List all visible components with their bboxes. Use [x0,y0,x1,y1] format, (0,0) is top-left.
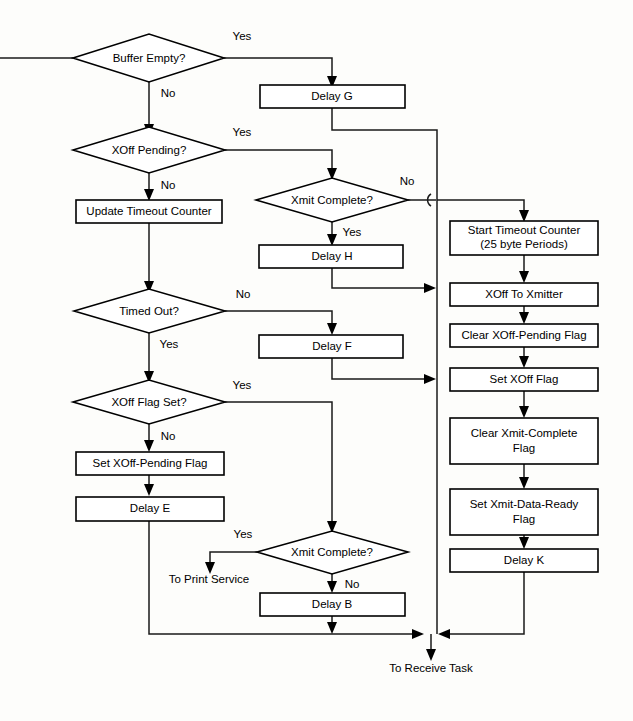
arrowhead-into-clear-xoff-pending-flag [519,312,529,324]
process-clear-xoff-pending-flag-label: Clear XOff-Pending Flag [461,329,586,341]
process-delay-g-label: Delay G [311,90,353,102]
edge-label-xmit-complete-bottom-yes: Yes [234,528,253,540]
process-clear-xmit-complete-flag-shape [450,418,598,464]
decision-xoff-flag-set[interactable]: XOff Flag Set? [73,380,225,424]
edge-label-xoff-pending-no: No [161,179,176,191]
arrowhead-into-set-xoff-pending-flag [144,440,154,452]
arrowhead-delay-b-bottom-rail [327,622,337,634]
arrowhead-into-to-receive-task [426,649,436,661]
arrowhead-into-xoff-to-xmitter [519,271,529,283]
process-clear-xmit-complete-flag-label-line2: Flag [513,442,535,454]
process-xoff-to-xmitter-label: XOff To Xmitter [485,288,563,300]
decision-timed-out-label: Timed Out? [119,305,179,317]
arrowhead-into-clear-xmit-complete-flag [519,406,529,418]
decision-timed-out[interactable]: Timed Out? [74,289,225,333]
edge-xmit-complete-top-no-b [437,200,524,214]
decision-xmit-complete-top[interactable]: Xmit Complete? [256,178,408,222]
decision-buffer-empty[interactable]: Buffer Empty? [73,34,224,82]
arrowhead-into-start-timeout-counter [519,210,529,222]
process-start-timeout-counter-label-line1: Start Timeout Counter [468,224,581,236]
process-delay-h-label: Delay H [312,250,353,262]
edge-label-timed-out-no: No [236,288,251,300]
arrowhead-into-delay-f [327,323,337,335]
process-set-xmit-data-ready-flag[interactable]: Set Xmit-Data-Ready Flag [450,489,598,535]
decision-xoff-pending-label: XOff Pending? [112,144,187,156]
process-set-xmit-data-ready-flag-label-line2: Flag [513,513,535,525]
decision-xmit-complete-bottom[interactable]: Xmit Complete? [257,531,408,574]
edge-label-xmit-complete-bottom-no: No [345,578,360,590]
process-set-xoff-pending-flag-label: Set XOff-Pending Flag [93,457,208,469]
process-start-timeout-counter[interactable]: Start Timeout Counter (25 byte Periods) [450,221,598,255]
edge-xoff-pending-yes [225,150,332,172]
process-set-xoff-flag[interactable]: Set XOff Flag [450,368,598,391]
edge-label-xoff-pending-yes: Yes [233,126,252,138]
arrowhead-delay-h-trunk [424,283,436,293]
decision-xmit-complete-bottom-label: Xmit Complete? [291,546,373,558]
process-xoff-to-xmitter[interactable]: XOff To Xmitter [450,283,598,306]
process-delay-b[interactable]: Delay B [260,593,405,616]
edge-delay-h-to-trunk [332,267,428,288]
edge-label-buffer-empty-yes: Yes [233,30,252,42]
edge-label-xmit-complete-top-yes: Yes [343,226,362,238]
edge-timed-out-no [225,311,332,327]
process-delay-g[interactable]: Delay G [260,85,405,108]
decision-xmit-complete-top-label: Xmit Complete? [291,194,373,206]
edge-label-buffer-empty-no: No [161,87,176,99]
arrowhead-into-delay-b [327,581,337,593]
edge-delay-k-to-bottom-junction [446,571,524,634]
arrowhead-right-into-bottom-junction [438,629,450,639]
arrowhead-left-into-bottom-junction [412,629,424,639]
process-delay-k[interactable]: Delay K [450,549,598,572]
arrowhead-into-delay-k [519,537,529,549]
edge-label-xoff-flag-set-yes: Yes [233,379,252,391]
process-delay-k-label: Delay K [504,554,545,566]
process-clear-xmit-complete-flag[interactable]: Clear Xmit-Complete Flag [450,418,598,464]
terminal-to-print-service: To Print Service [169,573,250,585]
process-delay-e-label: Delay E [130,502,171,514]
process-clear-xmit-complete-flag-label-line1: Clear Xmit-Complete [471,427,578,439]
arrowhead-into-delay-h [327,234,337,246]
terminal-to-receive-task: To Receive Task [389,662,473,674]
decision-xoff-flag-set-label: XOff Flag Set? [111,396,186,408]
process-start-timeout-counter-label-line2: (25 byte Periods) [480,238,568,250]
process-delay-f[interactable]: Delay F [259,335,403,358]
edge-xmit-complete-bottom-yes [210,552,257,566]
process-update-timeout-counter[interactable]: Update Timeout Counter [76,200,222,223]
arrowhead-into-set-xoff-flag [519,356,529,368]
process-clear-xoff-pending-flag[interactable]: Clear XOff-Pending Flag [450,324,598,347]
process-set-xmit-data-ready-flag-label-line1: Set Xmit-Data-Ready [470,498,579,510]
decision-buffer-empty-label: Buffer Empty? [113,52,186,64]
process-delay-f-label: Delay F [312,340,352,352]
process-delay-e[interactable]: Delay E [76,497,224,521]
process-delay-h[interactable]: Delay H [259,245,403,268]
decision-xoff-pending[interactable]: XOff Pending? [73,127,225,173]
arrowhead-into-set-xmit-data-ready-flag [519,477,529,489]
process-set-xmit-data-ready-flag-shape [450,489,598,535]
edge-buffer-empty-yes [224,58,332,80]
edge-delay-f-to-trunk [332,358,428,379]
edge-label-xmit-complete-top-no: No [400,175,415,187]
flowchart-svg: Buffer Empty? XOff Pending? Delay G Upda… [0,0,633,721]
edge-label-xoff-flag-set-no: No [161,430,176,442]
arrowhead-delay-f-trunk [424,374,436,384]
arrowhead-into-delay-e [144,484,154,496]
edge-xoff-flag-set-yes [225,402,332,525]
flowchart-canvas: Buffer Empty? XOff Pending? Delay G Upda… [0,0,633,721]
edge-label-timed-out-yes: Yes [160,338,179,350]
arrowhead-into-update-timeout-counter [144,189,154,201]
process-set-xoff-pending-flag[interactable]: Set XOff-Pending Flag [76,452,224,475]
process-delay-b-label: Delay B [312,598,353,610]
process-update-timeout-counter-label: Update Timeout Counter [86,205,211,217]
process-set-xoff-flag-label: Set XOff Flag [490,373,559,385]
